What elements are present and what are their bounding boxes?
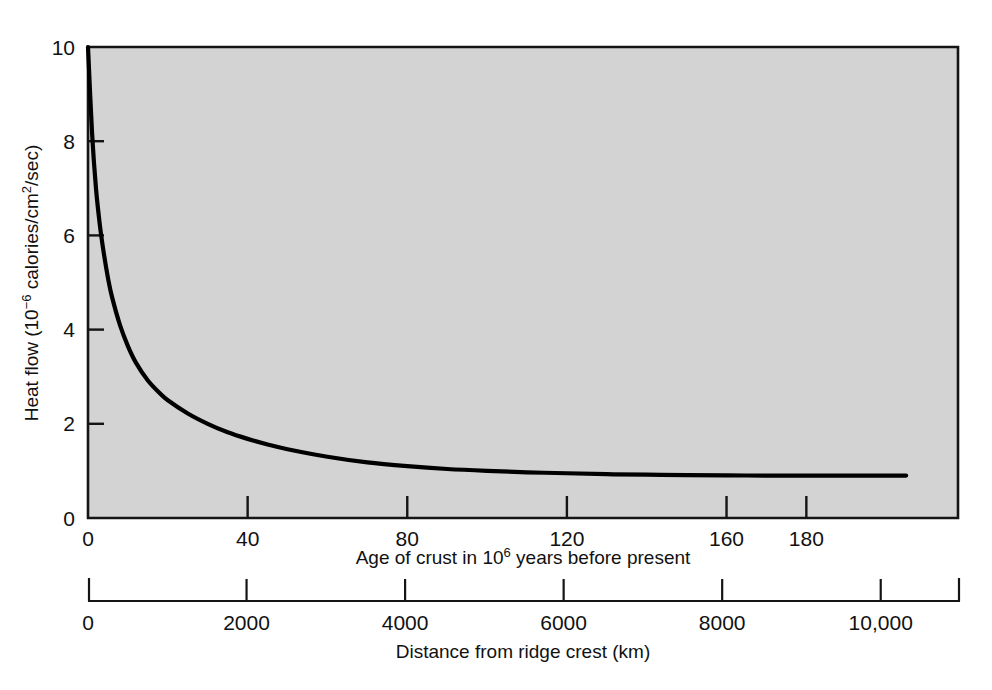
x-axis-age-title: Age of crust in 106 years before present — [356, 545, 691, 568]
y-axis-title: Heat flow (10−6 calories/cm2/sec) — [19, 145, 42, 422]
x-distance-tick-label-8000: 8000 — [699, 611, 746, 634]
x-age-tick-label-40: 40 — [236, 527, 259, 550]
x-age-tick-label-180: 180 — [789, 527, 824, 550]
x-age-tick-label-160: 160 — [709, 527, 744, 550]
x-axis-distance-title: Distance from ridge crest (km) — [396, 641, 650, 662]
y-tick-label-8: 8 — [63, 130, 75, 153]
x-distance-tick-label-6000: 6000 — [540, 611, 587, 634]
x-distance-tick-label-4000: 4000 — [382, 611, 429, 634]
y-tick-label-6: 6 — [63, 224, 75, 247]
plot-background — [88, 47, 958, 518]
chart-svg: 0246810 Heat flow (10−6 calories/cm2/sec… — [0, 0, 992, 690]
heat-flow-figure: 0246810 Heat flow (10−6 calories/cm2/sec… — [0, 0, 992, 690]
x-distance-tick-label-2000: 2000 — [223, 611, 270, 634]
x-distance-tick-label-10000: 10,000 — [849, 611, 913, 634]
y-tick-label-2: 2 — [63, 412, 75, 435]
y-tick-label-0: 0 — [63, 507, 75, 530]
plot-area — [88, 47, 958, 518]
x-distance-tick-label-0: 0 — [82, 611, 94, 634]
y-tick-label-4: 4 — [63, 318, 75, 341]
y-tick-label-10: 10 — [52, 36, 75, 59]
x-age-tick-label-0: 0 — [82, 527, 94, 550]
